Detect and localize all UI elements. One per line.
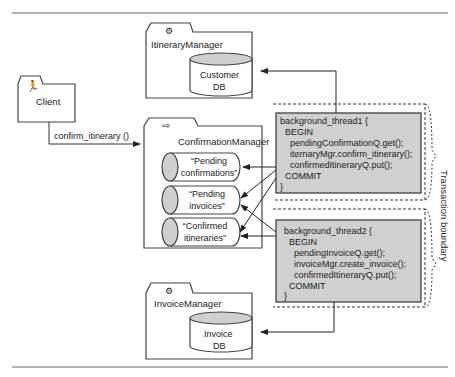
confirmation-manager-package: ⇨ ConfirmationManager “Pending confirmat… [144, 118, 269, 248]
queue-confirmed-itineraries: “Confirmed itineraries” [162, 218, 240, 246]
svg-text:}: } [280, 182, 283, 192]
svg-text:iternaryMgr.confirm_itinerary(: iternaryMgr.confirm_itinerary(); [290, 149, 413, 159]
itinerary-manager-package: ⚙ ItineraryManager Customer DB [146, 23, 252, 98]
boundary-label: Transaction boundary [439, 170, 450, 262]
arrow-icon: ⇨ [162, 120, 170, 131]
svg-text:confirmedItineraryQ.put();: confirmedItineraryQ.put(); [294, 270, 397, 280]
svg-text:COMMIT: COMMIT [285, 171, 322, 181]
call-label: confirm_itinerary () [54, 131, 129, 141]
background-thread1: background_thread1 { BEGIN pendingConfir… [276, 113, 421, 193]
svg-text:invoices”: invoices” [189, 201, 225, 211]
call-arrow: confirm_itinerary () [49, 122, 140, 144]
svg-text:“Pending: “Pending [191, 156, 227, 166]
actor-icon: 🏃 [26, 80, 40, 93]
background-thread2: background_thread2 { BEGIN pendingInvoic… [276, 220, 421, 302]
svg-text:pendingInvoiceQ.get();: pendingInvoiceQ.get(); [294, 248, 385, 258]
invoice-db: Invoice DB [190, 312, 252, 352]
svg-text:itineraries”: itineraries” [184, 233, 226, 243]
svg-text:COMMIT: COMMIT [289, 281, 326, 291]
svg-text:invoiceMgr.create_invoice();: invoiceMgr.create_invoice(); [294, 259, 406, 269]
itinerary-manager-label: ItineraryManager [151, 39, 223, 50]
svg-text:pendingConfirmationQ.get();: pendingConfirmationQ.get(); [290, 138, 404, 148]
invoice-manager-package: ⚙ InvoiceManager Invoice DB [146, 283, 252, 359]
svg-text:confirmedItineraryQ.put();: confirmedItineraryQ.put(); [290, 160, 393, 170]
svg-text:background_thread2 {: background_thread2 { [284, 226, 372, 236]
svg-text:confirmations”: confirmations” [181, 168, 238, 178]
svg-text:}: } [284, 291, 287, 301]
queue-pending-confirmations: “Pending confirmations” [162, 153, 240, 181]
client-package: 🏃 Client [18, 76, 75, 122]
svg-text:Invoice: Invoice [204, 329, 233, 339]
queue-pending-invoices: “Pending invoices” [162, 186, 240, 214]
svg-text:DB: DB [213, 341, 226, 351]
gear-icon: ⚙ [165, 286, 173, 296]
svg-text:BEGIN: BEGIN [289, 237, 317, 247]
customer-db: Customer DB [190, 53, 252, 96]
client-label: Client [36, 96, 61, 107]
diagram-canvas: 🏃 Client confirm_itinerary () ⚙ Itinerar… [0, 0, 455, 377]
invoice-manager-label: InvoiceManager [154, 298, 222, 309]
svg-text:Customer: Customer [200, 70, 239, 80]
confirmation-manager-label: ConfirmationManager [178, 136, 269, 147]
svg-text:DB: DB [213, 82, 226, 92]
svg-text:BEGIN: BEGIN [285, 127, 313, 137]
gear-icon: ⚙ [165, 26, 173, 36]
svg-text:background_thread1 {: background_thread1 { [280, 116, 368, 126]
svg-text:“Confirmed: “Confirmed [183, 221, 228, 231]
svg-text:“Pending: “Pending [189, 189, 225, 199]
